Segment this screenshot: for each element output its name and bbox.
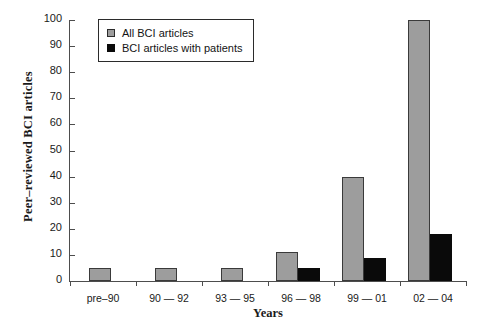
y-axis-tick-label: 90 xyxy=(50,38,62,50)
y-axis-tick-label: 30 xyxy=(50,195,62,207)
y-axis-tick: 10 xyxy=(70,255,75,256)
y-axis-tick-label: 70 xyxy=(50,90,62,102)
legend-item-label: All BCI articles xyxy=(122,27,194,39)
y-axis-tick-label: 10 xyxy=(50,247,62,259)
y-axis-tick: 90 xyxy=(70,46,75,47)
bar xyxy=(342,177,364,281)
x-axis-tick xyxy=(70,281,71,286)
x-axis-tick-label: 02 — 04 xyxy=(388,292,478,304)
x-axis-title: Years xyxy=(70,306,466,321)
y-axis-tick: 60 xyxy=(70,124,75,125)
y-axis-tick: 70 xyxy=(70,98,75,99)
y-axis-tick-label: 100 xyxy=(44,12,62,24)
bar xyxy=(276,252,298,281)
x-axis-tick xyxy=(466,281,467,286)
legend-item: BCI articles with patients xyxy=(107,40,242,55)
y-axis-tick: 40 xyxy=(70,177,75,178)
x-axis-tick xyxy=(334,281,335,286)
legend-item-label: BCI articles with patients xyxy=(122,42,242,54)
y-axis-tick-label: 50 xyxy=(50,143,62,155)
y-axis-tick: 30 xyxy=(70,203,75,204)
bar xyxy=(298,268,320,281)
y-axis-tick-label: 20 xyxy=(50,221,62,233)
bar xyxy=(155,268,177,281)
x-axis-tick xyxy=(400,281,401,286)
y-axis-tick: 20 xyxy=(70,229,75,230)
black-square-marker-icon xyxy=(107,44,115,52)
bar xyxy=(221,268,243,281)
bar xyxy=(364,258,386,281)
y-axis-tick: 100 xyxy=(70,20,75,21)
y-axis-tick-label: 60 xyxy=(50,116,62,128)
y-axis-tick-label: 0 xyxy=(56,273,62,285)
y-axis-tick: 80 xyxy=(70,72,75,73)
y-axis-title: Peer–reviewed BCI articles xyxy=(21,32,36,262)
legend-item: All BCI articles xyxy=(107,25,242,40)
bar-chart-figure: Peer–reviewed BCI articles Years 0102030… xyxy=(0,0,485,331)
y-axis-tick-label: 40 xyxy=(50,169,62,181)
x-axis-tick xyxy=(136,281,137,286)
x-axis-tick xyxy=(268,281,269,286)
y-axis-tick: 50 xyxy=(70,151,75,152)
chart-legend: All BCI articlesBCI articles with patien… xyxy=(98,19,254,62)
bar xyxy=(408,20,430,281)
y-axis-tick-label: 80 xyxy=(50,64,62,76)
bar xyxy=(89,268,111,281)
bar xyxy=(430,234,452,281)
x-axis-tick xyxy=(202,281,203,286)
gray-square-marker-icon xyxy=(107,29,115,37)
